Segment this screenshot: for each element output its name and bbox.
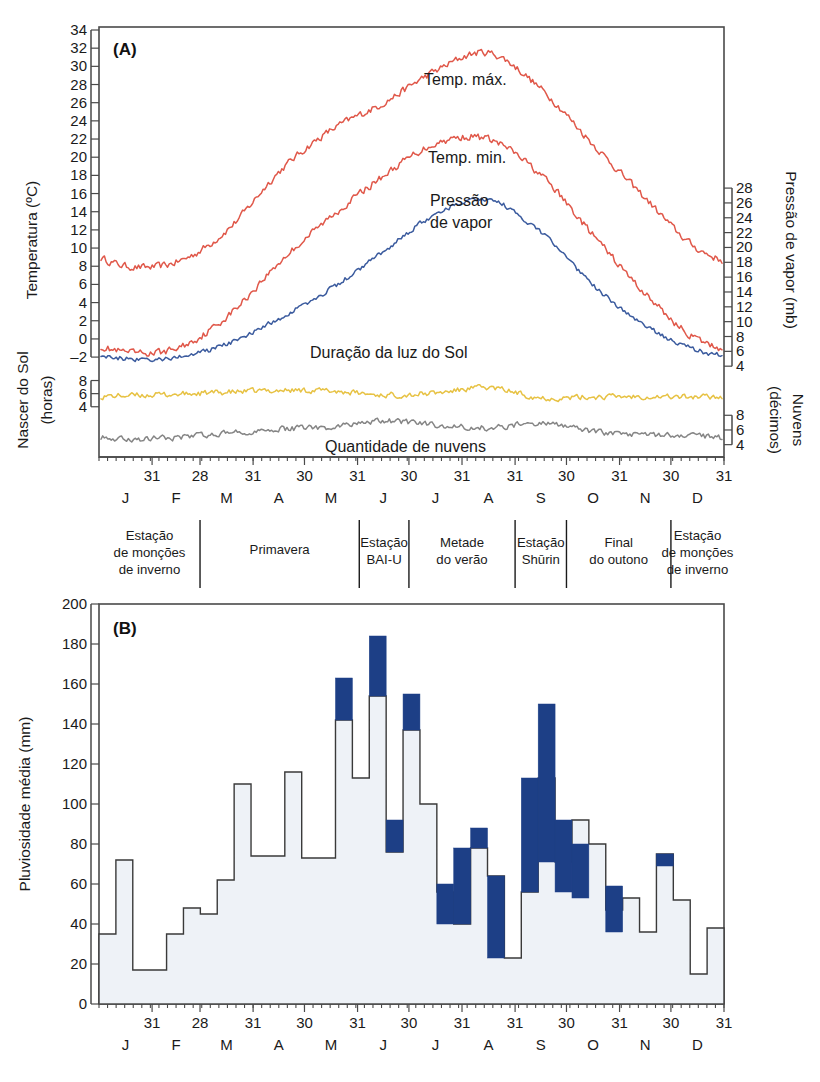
panel-a-month-label: J — [122, 489, 130, 506]
panel-a-daycount-label: 30 — [663, 467, 680, 484]
panel-a-y2tick-label: 10 — [736, 313, 753, 330]
series-line-2 — [101, 198, 722, 362]
panel-a-month-label: J — [379, 489, 387, 506]
panel-b-blue-band — [606, 886, 623, 932]
panel-b-month-label: S — [536, 1036, 546, 1053]
panel-a-right-lower-axis-title-1: Nuvens — [790, 394, 807, 447]
panel-a-ytick-label: 20 — [70, 148, 87, 165]
panel-a-y2tick-label: 24 — [736, 209, 753, 226]
panel-a-daycount-label: 30 — [558, 467, 575, 484]
panel-b-daycount-label: 31 — [507, 1014, 524, 1031]
panel-b-daycount-label: 31 — [349, 1014, 366, 1031]
season-label: do outono — [589, 552, 648, 567]
annotation-temp-min: Temp. min. — [428, 149, 506, 166]
panel-a-daycount-label: 31 — [349, 467, 366, 484]
panel-a-daycount-label: 30 — [296, 467, 313, 484]
panel-b: (B) Pluviosidade média (mm) 020406080100… — [16, 595, 732, 1053]
panel-b-blue-band — [471, 828, 488, 848]
panel-a-cloud-ticks: 468 — [724, 406, 744, 452]
panel-a-month-label: A — [274, 489, 284, 506]
panel-a-month-label: A — [484, 489, 494, 506]
panel-a-sun-ticks: 468 — [79, 372, 99, 415]
panel-b-blue-band — [521, 778, 538, 892]
panel-a-cloud-tick-label: 4 — [736, 436, 744, 453]
panel-b-blue-band — [488, 876, 505, 958]
panel-b-daycount-label: 31 — [716, 1014, 733, 1031]
panel-b-daycount-label: 31 — [144, 1014, 161, 1031]
panel-b-ytick-label: 160 — [62, 675, 87, 692]
annotation-temp-max: Temp. máx. — [424, 71, 507, 88]
panel-b-blue-band — [403, 694, 420, 730]
panel-b-bars — [99, 636, 724, 1004]
panel-b-ytick-label: 60 — [70, 875, 87, 892]
panel-a-daycount-label: 28 — [192, 467, 209, 484]
climate-figure: (A) Temperatura (ºC) Nascer do Sol (hora… — [0, 0, 820, 1082]
panel-b-blue-band — [335, 678, 352, 720]
panel-a-ytick-label: 16 — [70, 185, 87, 202]
panel-a-y2tick-label: 22 — [736, 224, 753, 241]
annotation-vapor-line2: de vapor — [430, 214, 493, 231]
panel-a: (A) Temperatura (ºC) Nascer do Sol (hora… — [14, 21, 807, 506]
panel-a-y2tick-label: 6 — [736, 342, 744, 359]
panel-b-ytick-label: 200 — [62, 595, 87, 612]
season-label: de monções — [114, 545, 186, 560]
panel-b-blue-band — [454, 848, 471, 924]
season-label: Estação — [674, 528, 722, 543]
panel-b-blue-band — [369, 636, 386, 696]
panel-a-month-label: N — [640, 489, 651, 506]
panel-a-ytick-label: 14 — [70, 203, 87, 220]
panel-a-right-axis-title: Pressão de vapor (mb) — [783, 171, 800, 329]
series-line-0 — [101, 49, 722, 270]
panel-b-bar-area — [99, 696, 724, 1004]
panel-b-daycount-label: 31 — [245, 1014, 262, 1031]
panel-a-ytick-label: 24 — [70, 112, 87, 129]
panel-a-daycount-label: 31 — [454, 467, 471, 484]
panel-a-cloud-tick-label: 6 — [736, 421, 744, 438]
panel-a-month-label: M — [325, 489, 338, 506]
series-line-3 — [101, 385, 722, 402]
panel-b-month-label: N — [640, 1036, 651, 1053]
panel-b-left-axis-title: Pluviosidade média (mm) — [16, 717, 33, 892]
panel-b-ytick-label: 120 — [62, 755, 87, 772]
panel-b-daycount-label: 30 — [663, 1014, 680, 1031]
panel-a-ytick-label: 32 — [70, 39, 87, 56]
panel-a-left-ticks: –20246810121416182022242628303234 — [70, 21, 99, 365]
panel-b-left-ticks: 020406080100120140160180200 — [62, 595, 99, 1012]
season-label: Metade — [440, 535, 484, 550]
season-label: Final — [604, 535, 633, 550]
panel-a-y2tick-label: 14 — [736, 283, 753, 300]
panel-b-blue-band — [437, 884, 454, 924]
panel-a-y2tick-label: 20 — [736, 238, 753, 255]
panel-b-blue-band — [386, 820, 403, 852]
panel-a-right-lower-axis-title-2: (décimos) — [767, 386, 784, 454]
panel-a-left-lower-axis-title-2: (horas) — [38, 375, 55, 424]
panel-a-ytick-label: 30 — [70, 57, 87, 74]
panel-b-daycount-label: 30 — [558, 1014, 575, 1031]
panel-b-month-label: O — [587, 1036, 599, 1053]
season-label: de monções — [662, 545, 734, 560]
panel-a-plot-frame — [99, 27, 724, 457]
panel-a-left-axis-title: Temperatura (ºC) — [23, 181, 40, 300]
panel-b-month-label: A — [484, 1036, 494, 1053]
season-label: Estação — [126, 528, 174, 543]
panel-a-y2tick-label: 16 — [736, 268, 753, 285]
season-label: de inverno — [667, 562, 729, 577]
panel-a-y2tick-label: 18 — [736, 253, 753, 270]
season-label: Estação — [517, 535, 565, 550]
season-label: Primavera — [250, 542, 311, 557]
panel-a-y2tick-label: 4 — [736, 357, 744, 374]
panel-a-month-label: S — [536, 489, 546, 506]
panel-b-ytick-label: 140 — [62, 715, 87, 732]
panel-a-month-label: M — [220, 489, 233, 506]
panel-a-ytick-label: 10 — [70, 239, 87, 256]
panel-b-blue-band — [555, 820, 572, 892]
panel-b-ytick-label: 40 — [70, 915, 87, 932]
panel-a-ytick-label: 6 — [79, 275, 87, 292]
panel-a-cloud-tick-label: 8 — [736, 406, 744, 423]
panel-b-ytick-label: 20 — [70, 955, 87, 972]
panel-a-month-axis: 31J28F31M30A31M30J31J31A30S31O30N31D — [99, 457, 732, 506]
panel-b-daycount-label: 30 — [401, 1014, 418, 1031]
panel-a-ytick-label: 4 — [79, 294, 87, 311]
panel-a-sun-tick-label: 8 — [79, 372, 87, 389]
panel-a-daycount-label: 31 — [144, 467, 161, 484]
